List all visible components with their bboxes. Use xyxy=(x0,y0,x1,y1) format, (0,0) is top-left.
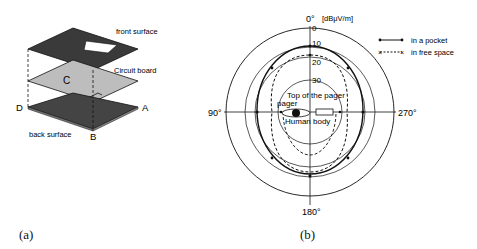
panel-a-pager-structure: front surface Circuit board C A B D back… xyxy=(0,0,160,249)
polar-chart: 0° [dBμV/m] 0 10 20 30 Top of the pager … xyxy=(180,0,477,249)
circuit-board-label: Circuit board xyxy=(114,66,157,75)
angle-270-label: 270° xyxy=(398,108,417,118)
ring-label-10: 10 xyxy=(312,39,321,48)
front-surface-label: front surface xyxy=(116,27,158,36)
ring-label-20: 20 xyxy=(312,58,321,67)
svg-text:×: × xyxy=(378,49,382,56)
angle-90-label: 90° xyxy=(208,108,222,118)
back-surface-plate xyxy=(28,93,138,129)
svg-text:×: × xyxy=(400,49,404,56)
legend: in a pocket ×× in free space xyxy=(378,36,454,57)
unit-label: [dBμV/m] xyxy=(322,14,353,23)
panel-b-polar-pattern: 0° [dBμV/m] 0 10 20 30 Top of the pager … xyxy=(180,0,477,249)
point-b-label: B xyxy=(90,131,96,142)
pager-label: pager xyxy=(277,99,298,108)
angle-180-label: 180° xyxy=(302,207,321,217)
ring-label-30: 30 xyxy=(312,76,321,85)
pager-marker xyxy=(292,109,300,117)
pager-layers-diagram: front surface Circuit board C A B D back… xyxy=(0,0,160,249)
caption-a: (a) xyxy=(19,227,33,243)
pager-shape xyxy=(316,109,333,115)
ring-label-0: 0 xyxy=(312,24,317,33)
legend-in-pocket: in a pocket xyxy=(411,36,448,45)
back-surface-label: back surface xyxy=(29,130,72,139)
point-d-label: D xyxy=(16,102,23,113)
point-c-label: C xyxy=(63,75,70,86)
legend-in-free-space: in free space xyxy=(411,48,454,57)
point-a-label: A xyxy=(142,102,149,113)
caption-b: (b) xyxy=(300,227,315,243)
human-body-label: Human body xyxy=(285,117,330,126)
angle-0-label: 0° xyxy=(306,14,315,24)
